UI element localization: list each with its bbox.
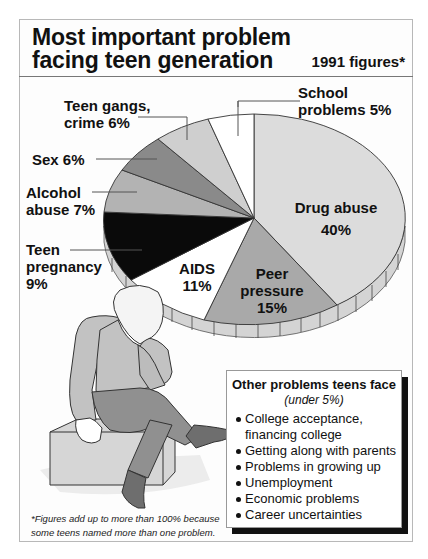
label-text: School — [298, 84, 391, 101]
label-teen-gangs: Teen gangs, crime 6% — [64, 97, 150, 131]
other-problems-list: College acceptance, financing college Ge… — [227, 411, 401, 523]
label-text: Peer — [232, 265, 312, 282]
list-item: Getting along with parents — [235, 443, 401, 459]
label-text: AIDS — [172, 260, 222, 277]
footnote-line: some teens named more than one problem. — [31, 526, 220, 540]
list-item: College acceptance, financing college — [235, 411, 401, 443]
label-sex: Sex 6% — [32, 151, 85, 168]
footnote-line: *Figures add up to more than 100% becaus… — [31, 512, 220, 526]
label-text: 11% — [172, 277, 222, 294]
footnote: *Figures add up to more than 100% becaus… — [31, 512, 220, 540]
label-text: pregnancy — [26, 258, 102, 275]
label-text: 40% — [286, 219, 386, 241]
label-text: 15% — [232, 299, 312, 316]
label-alcohol-abuse: Alcohol abuse 7% — [26, 184, 95, 218]
list-item: Problems in growing up — [235, 459, 401, 475]
label-text: pressure — [232, 282, 312, 299]
label-school-problems: School problems 5% — [298, 84, 391, 118]
label-text: problems 5% — [298, 101, 391, 118]
label-teen-pregnancy: Teen pregnancy 9% — [26, 241, 102, 292]
label-peer-pressure: Peer pressure 15% — [232, 265, 312, 316]
label-text: crime 6% — [64, 114, 150, 131]
label-text: Drug abuse — [286, 197, 386, 219]
other-problems-box: Other problems teens face (under 5%) Col… — [226, 370, 402, 528]
label-aids: AIDS 11% — [172, 260, 222, 294]
label-text: Teen — [26, 241, 102, 258]
label-text: 9% — [26, 275, 102, 292]
label-drug-abuse: Drug abuse 40% — [286, 197, 386, 241]
callout-title: Other problems teens face — [227, 377, 401, 392]
list-item: Career uncertainties — [235, 507, 401, 523]
list-item: Unemployment — [235, 475, 401, 491]
label-text: Teen gangs, — [64, 97, 150, 114]
label-text: Alcohol — [26, 184, 95, 201]
list-item: Economic problems — [235, 491, 401, 507]
callout-subtitle: (under 5%) — [227, 393, 401, 407]
label-text: abuse 7% — [26, 201, 95, 218]
